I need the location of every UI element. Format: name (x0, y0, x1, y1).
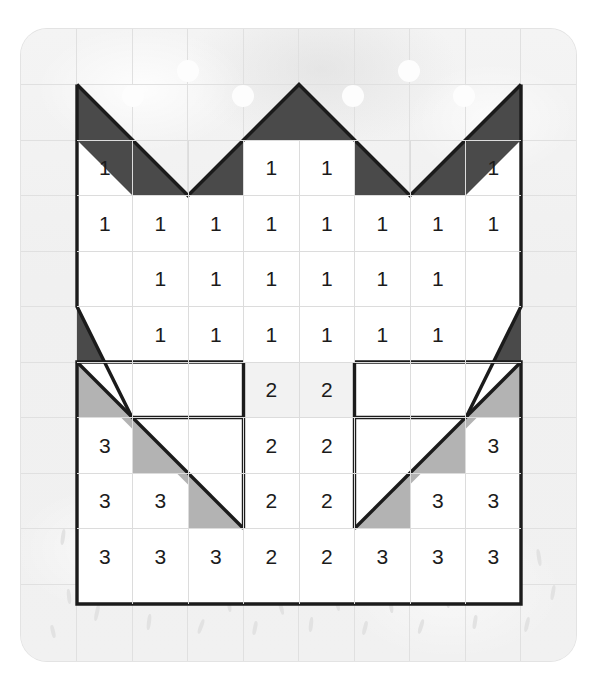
worksheet-stage: 1111111111111111111111112232233322333332… (0, 0, 595, 691)
paper-sheet (21, 29, 576, 661)
pencil-specks (21, 29, 576, 661)
